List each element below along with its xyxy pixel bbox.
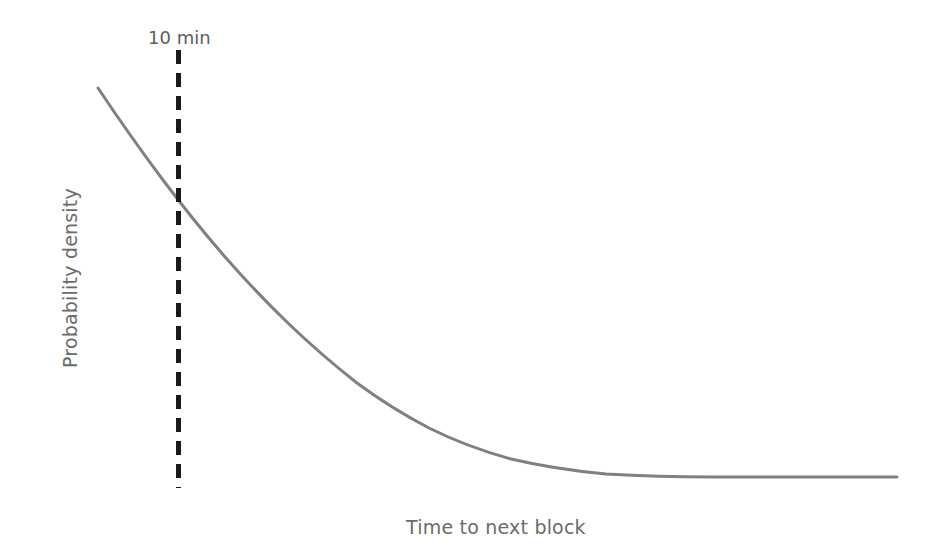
ten-minute-marker-label: 10 min — [148, 27, 211, 48]
plot-area — [0, 0, 942, 545]
density-curve — [98, 88, 897, 477]
y-axis-label: Probability density — [59, 188, 81, 368]
probability-density-chart: 10 min Probability density Time to next … — [0, 0, 942, 545]
x-axis-label: Time to next block — [406, 516, 586, 538]
